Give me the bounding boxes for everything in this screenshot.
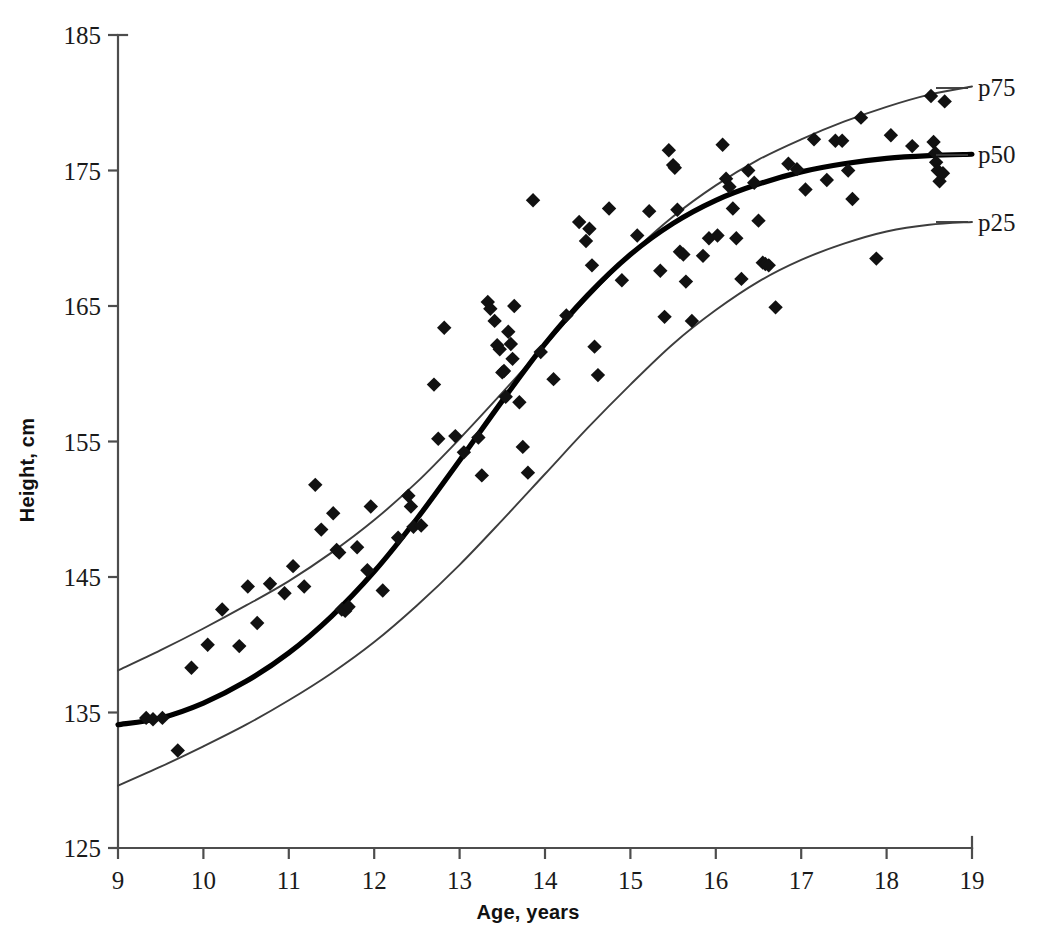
data-point <box>679 274 693 288</box>
series-label-p25: p25 <box>978 209 1016 236</box>
data-point <box>505 352 519 366</box>
data-point <box>475 468 489 482</box>
data-point <box>155 711 169 725</box>
tick-marks-group <box>108 35 972 859</box>
data-point <box>507 299 521 313</box>
data-point <box>657 310 671 324</box>
chart-canvas: 125135145155165175185 910111213141516171… <box>0 0 1043 949</box>
data-point <box>630 228 644 242</box>
data-point <box>286 559 300 573</box>
y-tick-label: 185 <box>64 22 102 49</box>
data-point <box>512 395 526 409</box>
data-point <box>437 320 451 334</box>
percentile-curve-p50 <box>118 154 972 724</box>
y-tick-label: 135 <box>64 700 102 727</box>
y-tick-label: 125 <box>64 835 102 862</box>
axes-group <box>118 35 972 848</box>
data-point <box>924 89 938 103</box>
data-point <box>845 192 859 206</box>
data-point <box>364 499 378 513</box>
data-point <box>926 135 940 149</box>
data-point <box>751 213 765 227</box>
data-point <box>662 143 676 157</box>
data-point <box>685 314 699 328</box>
data-point <box>768 300 782 314</box>
data-point <box>200 638 214 652</box>
data-point <box>326 506 340 520</box>
data-point <box>526 193 540 207</box>
data-point <box>516 440 530 454</box>
data-point <box>884 128 898 142</box>
data-point <box>308 478 322 492</box>
data-point <box>696 249 710 263</box>
data-point <box>215 602 229 616</box>
data-point <box>184 661 198 675</box>
data-point <box>729 231 743 245</box>
data-point <box>350 540 364 554</box>
x-axis-title: Age, years <box>476 901 579 923</box>
data-point <box>653 264 667 278</box>
data-point <box>807 132 821 146</box>
y-tick-label: 175 <box>64 158 102 185</box>
data-point <box>734 272 748 286</box>
x-tick-label: 15 <box>618 867 643 894</box>
data-point <box>376 583 390 597</box>
x-tick-label: 14 <box>533 867 559 894</box>
series-leader-lines <box>936 88 968 222</box>
y-tick-label: 155 <box>64 429 102 456</box>
data-point <box>427 377 441 391</box>
data-point <box>297 579 311 593</box>
data-point <box>404 499 418 513</box>
data-point <box>448 429 462 443</box>
data-point <box>820 173 834 187</box>
x-tick-labels: 910111213141516171819 <box>112 867 985 894</box>
data-point <box>277 586 291 600</box>
x-tick-label: 17 <box>789 867 814 894</box>
growth-chart: 125135145155165175185 910111213141516171… <box>0 0 1043 949</box>
data-point <box>241 579 255 593</box>
data-point <box>937 94 951 108</box>
y-tick-label: 145 <box>64 564 102 591</box>
scatter-points-group <box>139 89 952 758</box>
data-point <box>521 465 535 479</box>
data-point <box>615 273 629 287</box>
data-point <box>487 314 501 328</box>
data-point <box>869 251 883 265</box>
x-tick-label: 16 <box>703 867 728 894</box>
data-point <box>726 201 740 215</box>
percentile-curves-group <box>118 86 972 785</box>
data-point <box>579 234 593 248</box>
data-point <box>585 258 599 272</box>
x-tick-label: 12 <box>362 867 387 894</box>
x-tick-label: 18 <box>874 867 899 894</box>
y-axis-title: Height, cm <box>16 418 38 522</box>
data-point <box>798 182 812 196</box>
data-point <box>602 201 616 215</box>
data-point <box>905 139 919 153</box>
data-point <box>715 138 729 152</box>
axis-lines <box>118 35 972 848</box>
data-point <box>431 432 445 446</box>
data-point <box>741 163 755 177</box>
data-point <box>587 339 601 353</box>
x-tick-label: 9 <box>112 867 125 894</box>
data-point <box>232 639 246 653</box>
data-point <box>501 325 515 339</box>
data-point <box>314 522 328 536</box>
data-point <box>854 110 868 124</box>
data-point <box>401 489 415 503</box>
data-point <box>591 368 605 382</box>
y-tick-label: 165 <box>64 293 102 320</box>
percentile-curve-p25 <box>118 222 972 786</box>
data-point <box>546 372 560 386</box>
y-tick-labels: 125135145155165175185 <box>64 22 102 862</box>
x-tick-label: 13 <box>447 867 472 894</box>
x-tick-label: 10 <box>191 867 216 894</box>
data-point <box>250 616 264 630</box>
series-label-p50: p50 <box>978 141 1016 168</box>
data-point <box>642 204 656 218</box>
series-label-p75: p75 <box>978 74 1016 101</box>
x-tick-label: 11 <box>277 867 301 894</box>
x-tick-label: 19 <box>960 867 985 894</box>
